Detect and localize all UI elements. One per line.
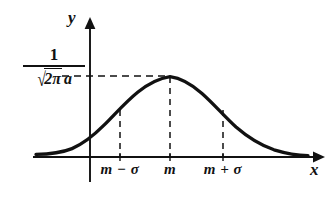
tick-label-m-minus-sigma: m − σ <box>101 161 140 178</box>
gaussian-curve-figure: y x 1 √2πa m − σ m m + σ <box>0 0 335 205</box>
scale-parameter: a <box>64 69 72 89</box>
y-axis-arrowhead <box>85 17 96 29</box>
tick-label-m: m <box>164 161 176 178</box>
y-axis-label: y <box>68 8 76 28</box>
x-axis-label: x <box>310 160 319 180</box>
radicand: 2π <box>44 68 62 89</box>
peak-denominator: √2πa <box>20 67 88 89</box>
peak-numerator: 1 <box>20 46 88 64</box>
radical-group: √2π <box>36 68 62 89</box>
peak-value-label: 1 √2πa <box>20 46 88 89</box>
tick-label-m-plus-sigma: m + σ <box>204 161 242 178</box>
